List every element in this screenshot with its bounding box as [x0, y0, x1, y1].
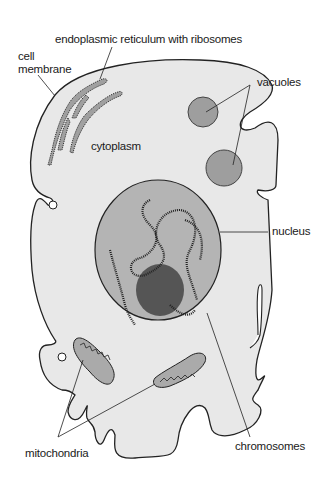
- label-chromosomes: chromosomes: [235, 440, 305, 453]
- label-mitochondria: mitochondria: [25, 447, 88, 460]
- label-cytoplasm: cytoplasm: [91, 140, 141, 153]
- pinocytic-vesicle-2: [58, 353, 66, 361]
- label-er: endoplasmic reticulum with ribosomes: [55, 33, 242, 46]
- pinocytic-vesicle-1: [49, 201, 57, 209]
- vacuole-2: [206, 150, 242, 186]
- label-nucleus: nucleus: [272, 225, 310, 238]
- label-cell-membrane-1: cell: [18, 50, 34, 63]
- label-vacuoles: vacuoles: [257, 76, 301, 89]
- nucleolus: [136, 264, 184, 316]
- label-cell-membrane-2: membrane: [18, 63, 71, 76]
- vacuole-1: [188, 97, 218, 127]
